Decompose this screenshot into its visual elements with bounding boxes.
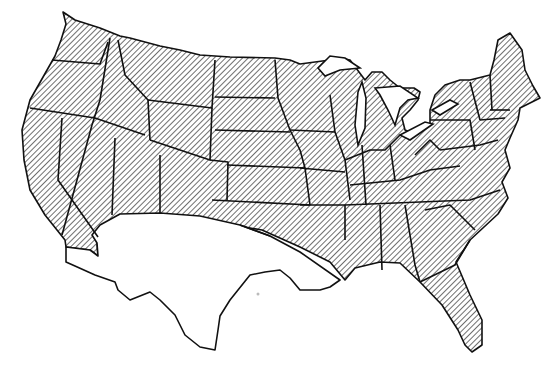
us-map — [0, 0, 543, 372]
scan-speck — [257, 293, 260, 296]
